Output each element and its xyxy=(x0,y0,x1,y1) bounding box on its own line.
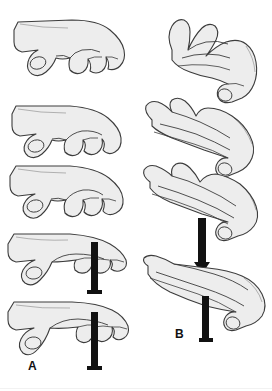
downward-force-arrow-b2 xyxy=(198,296,214,344)
hand-illustration-b1 xyxy=(146,14,266,108)
hand-illustration-a1 xyxy=(12,16,134,90)
bottom-divider xyxy=(0,388,272,389)
hand-illustration-a4 xyxy=(4,228,134,302)
downward-force-arrow-a2 xyxy=(86,312,104,372)
panel-label-b: B xyxy=(175,328,184,340)
hand-illustration-a3 xyxy=(6,158,134,232)
panel-a: A xyxy=(0,0,140,391)
hand-exercise-figure: A xyxy=(0,0,272,391)
panel-label-a: A xyxy=(28,360,37,372)
panel-b: B xyxy=(136,0,272,391)
hand-illustration-a5 xyxy=(4,296,136,374)
downward-force-arrow-a1 xyxy=(86,242,104,296)
